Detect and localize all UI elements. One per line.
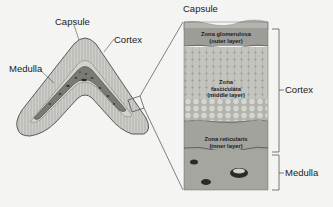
layer-brackets: [272, 29, 284, 190]
label-zona-fasciculata: Zona fasciculata (middle layer): [207, 79, 245, 99]
label-cortex-left: Cortex: [114, 35, 142, 45]
label-zona-glomerulosa: Zona glomerulosa (outer layer): [201, 31, 251, 44]
label-capsule-right: Capsule: [183, 4, 218, 14]
zoom-line-bottom: [144, 108, 183, 190]
label-medulla-left: Medulla: [9, 64, 42, 74]
label-capsule-left: Capsule: [55, 17, 90, 27]
gland-cross-section: [17, 38, 149, 136]
label-medulla-right: Medulla: [285, 168, 318, 178]
diagram-graphics: [0, 0, 333, 207]
magnified-panel: [184, 20, 268, 190]
zoom-line-top: [140, 22, 183, 96]
medulla-bracket: [272, 155, 279, 190]
panel-medulla: [184, 150, 268, 190]
adrenal-gland-diagram: Capsule Cortex Medulla Capsule Cortex Me…: [0, 0, 333, 207]
cortex-bracket: [272, 29, 279, 152]
label-zona-reticularis: Zona reticularis (inner layer): [204, 136, 247, 149]
label-cortex-right: Cortex: [285, 85, 313, 95]
